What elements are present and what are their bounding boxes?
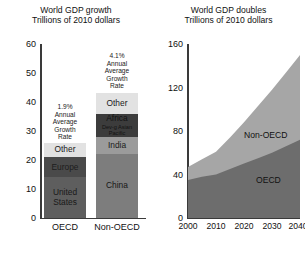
bar-segment-india[interactable]: India — [96, 137, 138, 154]
left-ytick-0: 0 — [10, 214, 36, 223]
right-xtick-2040: 2040 — [288, 222, 305, 231]
right-ytick-80: 80 — [153, 127, 183, 136]
left-ytick-20: 20 — [10, 156, 36, 165]
left-y-axis — [40, 44, 42, 219]
bar-segment-europe-label: Europe — [44, 163, 86, 172]
left-ytick-50: 50 — [10, 69, 36, 78]
annotation-oecd-growth-rate: 1.9% Annual Average Growth Rate — [44, 103, 86, 141]
right-xtick-2010: 2010 — [206, 222, 225, 231]
right-xtick-2000: 2000 — [178, 222, 197, 231]
bar-segment-europe[interactable]: Europe — [44, 157, 86, 177]
bar-segment-united-states[interactable]: United States — [44, 177, 86, 218]
right-plot-area: 160 120 80 40 0 Non-OECD OECD 2000 2010 … — [152, 0, 305, 264]
left-ytick-40: 40 — [10, 98, 36, 107]
bar-segment-nonoecd-other[interactable]: Other — [96, 93, 138, 113]
bar-segment-china[interactable]: China — [96, 154, 138, 218]
bar-non-oecd[interactable]: Other Africa Dev-g Asian Pacific India C… — [96, 93, 138, 218]
right-ytick-40: 40 — [153, 170, 183, 179]
left-plot-area: 60 50 40 30 20 10 0 Other Europe U — [0, 0, 152, 264]
bar-oecd[interactable]: Other Europe United States — [44, 143, 86, 218]
right-ytick-160: 160 — [153, 40, 183, 49]
figure-root: World GDP growth Trillions of 2010 dolla… — [0, 0, 305, 264]
left-ytick-10: 10 — [10, 185, 36, 194]
annotation-non-oecd-growth-rate: 4.1% Annual Average Growth Rate — [94, 52, 140, 90]
area-label-oecd: OECD — [256, 176, 281, 185]
right-ytick-120: 120 — [153, 83, 183, 92]
chart-world-gdp-doubles: World GDP doubles Trillions of 2010 doll… — [152, 0, 305, 264]
bar-segment-africa-dev-asia-pacific[interactable]: Africa Dev-g Asian Pacific — [96, 114, 138, 137]
bar-segment-africa-label: Africa Dev-g Asian Pacific — [96, 114, 138, 136]
right-xtick-2030: 2030 — [262, 222, 281, 231]
bar-segment-oecd-other[interactable]: Other — [44, 143, 86, 158]
bar-segment-nonoecd-other-label: Other — [96, 99, 138, 108]
bar-segment-oecd-other-label: Other — [44, 145, 86, 154]
right-xtick-2020: 2020 — [234, 222, 253, 231]
left-ytick-30: 30 — [10, 127, 36, 136]
left-ytick-60: 60 — [10, 40, 36, 49]
bar-segment-united-states-label: United States — [44, 188, 86, 207]
left-xtick-oecd: OECD — [52, 222, 78, 232]
left-xtick-non-oecd: Non-OECD — [94, 222, 140, 232]
bar-segment-china-label: China — [96, 181, 138, 190]
area-label-non-oecd: Non-OECD — [244, 131, 287, 140]
bar-segment-india-label: India — [96, 141, 138, 150]
chart-world-gdp-growth: World GDP growth Trillions of 2010 dolla… — [0, 0, 152, 264]
